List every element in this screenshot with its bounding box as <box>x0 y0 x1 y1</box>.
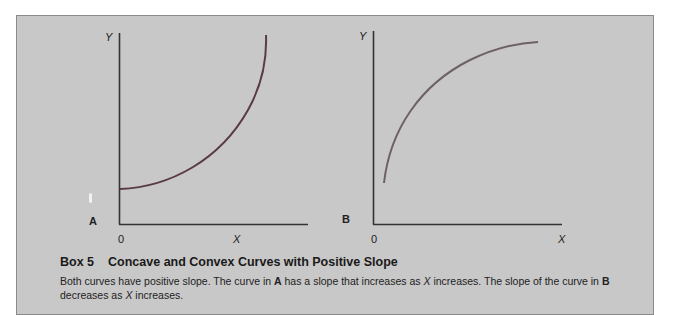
chart-b-origin-label: 0 <box>371 233 377 245</box>
chart-a-y-label: Y <box>105 31 112 43</box>
figure-number: Box 5 <box>60 255 94 269</box>
chart-a-x-label: X <box>233 233 240 245</box>
figure-caption: Both curves have positive slope. The cur… <box>60 274 620 302</box>
chart-b-x-label: X <box>558 233 565 245</box>
caption-text: increases. The slope of the curve in <box>430 275 601 287</box>
chart-b-panel-letter: B <box>342 213 350 225</box>
caption-text: decreases as <box>60 289 125 301</box>
chart-b-curve <box>384 42 538 183</box>
decorative-mark <box>89 193 92 203</box>
chart-a-panel-letter: A <box>89 215 97 227</box>
caption-ref-a: A <box>274 275 282 287</box>
chart-a-curve <box>120 35 266 189</box>
chart-b <box>373 31 562 225</box>
caption-text: has a slope that increases as <box>282 275 424 287</box>
caption-text: increases. <box>132 289 183 301</box>
chart-a <box>119 33 308 225</box>
chart-a-origin-label: 0 <box>118 233 124 245</box>
chart-b-y-label: Y <box>359 30 366 42</box>
caption-ref-b: B <box>602 275 610 287</box>
figure-title: Box 5Concave and Convex Curves with Posi… <box>60 255 398 269</box>
figure-title-text: Concave and Convex Curves with Positive … <box>108 255 398 269</box>
caption-text: Both curves have positive slope. The cur… <box>60 275 274 287</box>
